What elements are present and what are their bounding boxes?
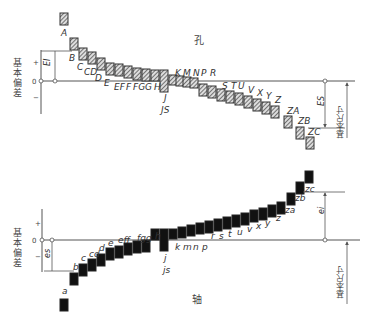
hole-label-v: V bbox=[248, 85, 255, 95]
hole-ei-origin bbox=[53, 79, 57, 83]
shaft-bar-n bbox=[196, 223, 204, 234]
hole-label-t: T bbox=[231, 81, 238, 91]
shaft-axis-label: 基本偏差 bbox=[12, 227, 22, 268]
hole-label-a: A bbox=[60, 28, 67, 38]
hole-bar-f bbox=[124, 66, 132, 78]
hole-axis-label: 基本偏差 bbox=[12, 57, 22, 98]
hole-diagram: 基本偏差 + 0 − EI 孔 ABCCDDEEFFFGGHJJSKMNPRST… bbox=[12, 13, 355, 149]
shaft-bar-j bbox=[169, 229, 177, 239]
hole-bar-r bbox=[208, 86, 216, 98]
hole-bar-h bbox=[151, 70, 159, 81]
hole-label-g: G bbox=[145, 82, 152, 92]
shaft-label-t: t bbox=[228, 229, 232, 239]
hole-bar-zb bbox=[296, 127, 304, 139]
hole-label-c: C bbox=[77, 62, 84, 72]
shaft-label-js: js bbox=[161, 265, 171, 275]
shaft-sign-zero: 0 bbox=[32, 237, 36, 245]
shaft-label-e: e bbox=[108, 238, 114, 248]
shaft-sign-plus: + bbox=[35, 220, 41, 228]
hole-bar-za bbox=[284, 116, 292, 128]
hole-bar-ef bbox=[115, 64, 123, 76]
hole-bar-p bbox=[199, 84, 207, 96]
hole-title: 孔 bbox=[194, 35, 204, 46]
tolerance-diagram: 基本偏差 + 0 − EI 孔 ABCCDDEEFFFGGHJJSKMNPRST… bbox=[0, 0, 370, 327]
hole-label-fg: FG bbox=[133, 82, 145, 92]
hole-label-p: P bbox=[201, 68, 207, 78]
hole-bar-z bbox=[271, 106, 279, 118]
hole-sign-minus: − bbox=[33, 94, 39, 102]
shaft-label-v: v bbox=[247, 224, 253, 234]
hole-label-d: D bbox=[95, 73, 102, 83]
hole-bar-fg bbox=[133, 68, 141, 80]
shaft-label-n: n bbox=[193, 242, 199, 252]
shaft-label-p: p bbox=[201, 242, 208, 252]
hole-label-b: B bbox=[69, 53, 75, 63]
hole-sign-plus: + bbox=[33, 59, 39, 67]
shaft-label-s: s bbox=[219, 231, 224, 241]
shaft-bar-m bbox=[187, 225, 195, 236]
hole-es-label: ES bbox=[317, 96, 326, 106]
hole-bar-x bbox=[253, 99, 261, 111]
hole-bar-n bbox=[190, 78, 198, 88]
shaft-label-zb: zb bbox=[294, 193, 306, 203]
hole-label-h: H bbox=[154, 82, 161, 92]
shaft-basic-size-label: 基本尺寸 bbox=[337, 266, 346, 299]
shaft-bar-t bbox=[232, 215, 240, 227]
hole-label-zc: ZC bbox=[307, 127, 321, 137]
shaft-label-fgg: fgg bbox=[137, 233, 152, 243]
hole-label-zb: ZB bbox=[297, 116, 310, 126]
hole-bar-e bbox=[106, 63, 114, 75]
shaft-label-j: j bbox=[162, 253, 167, 263]
hole-label-x: X bbox=[256, 88, 264, 98]
shaft-bar-s bbox=[223, 217, 231, 229]
shaft-bar-y bbox=[268, 205, 276, 217]
shaft-label-eff: eff bbox=[118, 235, 132, 245]
hole-bar-t bbox=[226, 91, 234, 103]
shaft-bar-a bbox=[60, 299, 68, 311]
hole-bar-d bbox=[97, 58, 105, 70]
hole-bar-zc bbox=[306, 137, 314, 149]
hole-label-za: ZA bbox=[286, 106, 299, 116]
hole-label-m: M bbox=[183, 68, 191, 78]
hole-label-e: E bbox=[104, 78, 110, 88]
shaft-zero-origin bbox=[40, 238, 44, 242]
shaft-bar-c bbox=[79, 264, 87, 276]
shaft-label-zc: zc bbox=[304, 184, 315, 194]
shaft-es-label: es bbox=[43, 249, 52, 258]
hole-bar-u bbox=[235, 93, 243, 105]
hole-bar-a bbox=[60, 13, 68, 25]
hole-label-js: JS bbox=[159, 105, 170, 115]
hole-label-u: U bbox=[238, 81, 245, 91]
shaft-label-u: u bbox=[237, 227, 243, 237]
hole-sign-zero: 0 bbox=[32, 78, 36, 86]
hole-label-z: Z bbox=[274, 95, 282, 105]
hole-bar-js bbox=[160, 70, 168, 92]
hole-label-r: R bbox=[210, 68, 216, 78]
hole-bar-b bbox=[70, 38, 78, 50]
hole-label-j: J bbox=[162, 93, 167, 103]
shaft-label-d: d bbox=[99, 243, 105, 253]
shaft-bar-e bbox=[106, 248, 114, 260]
shaft-label-y: y bbox=[264, 218, 271, 228]
shaft-ei-label: ei bbox=[317, 206, 326, 214]
hole-label-n: N bbox=[193, 68, 200, 78]
hole-basic-size-label: 基本尺寸 bbox=[337, 106, 346, 139]
hole-label-s: S bbox=[222, 81, 228, 91]
shaft-es-origin bbox=[50, 238, 54, 242]
hole-bar-c bbox=[79, 48, 87, 60]
hole-label-y: Y bbox=[266, 91, 273, 101]
hole-es-origin bbox=[323, 79, 327, 83]
shaft-bar-zc bbox=[305, 171, 313, 183]
shaft-label-z: z bbox=[275, 213, 281, 223]
shaft-label-b: b bbox=[73, 262, 79, 272]
hole-zero-origin bbox=[39, 79, 43, 83]
shaft-ei-origin bbox=[323, 238, 327, 242]
shaft-bar-cd bbox=[88, 259, 96, 271]
shaft-title: 轴 bbox=[192, 293, 202, 305]
shaft-diagram: 基本偏差 + 0 − es 轴 abccddeefffgghjjskmnprst… bbox=[12, 171, 360, 311]
shaft-bar-za bbox=[287, 193, 295, 205]
hole-ei-label: EI bbox=[43, 58, 52, 66]
shaft-label-m: m bbox=[183, 242, 192, 252]
shaft-bar-b bbox=[70, 273, 78, 285]
shaft-sign-minus: − bbox=[35, 253, 41, 261]
